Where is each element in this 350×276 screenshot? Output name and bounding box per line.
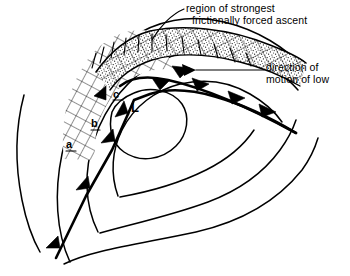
diagram-svg (0, 0, 350, 276)
front-barb (76, 176, 90, 190)
isobar-label-a: a (66, 138, 72, 150)
annotation-line-1: region of strongest (186, 2, 275, 14)
front-barb (192, 78, 209, 91)
isobar-label-b: b (91, 117, 98, 129)
isobar-c-return (120, 130, 254, 197)
isobar-outer-far-left (17, 95, 40, 252)
weather-diagram-canvas: region of strongestfrictionally forced a… (0, 0, 350, 276)
annotation-line-1: direction of (266, 61, 319, 73)
occluded-front-line (120, 78, 296, 133)
annotation-line-2: motion of low (266, 73, 329, 85)
isobar-b-return (100, 120, 296, 233)
isobar-outer-bottom (64, 138, 318, 264)
arrowhead (182, 64, 196, 76)
annotation-line-2: frictionally forced ascent (192, 15, 307, 27)
front-barb (46, 236, 60, 248)
annotation-direction-of-motion: direction ofmotion of low (266, 62, 329, 85)
low-center-label: L (131, 100, 139, 115)
front-barb (101, 129, 115, 143)
isobar-label-c: c (113, 88, 119, 100)
annotation-region-of-ascent: region of strongestfrictionally forced a… (186, 3, 307, 26)
motion-arrowhead (182, 64, 196, 76)
